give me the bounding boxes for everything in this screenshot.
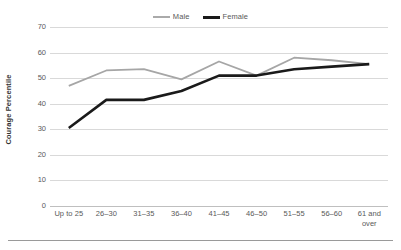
x-tick-label: Up to 25: [50, 209, 88, 241]
x-axis-tick-labels: Up to 2526–3031–3536–4041–4546–5051–5556…: [50, 209, 388, 241]
chart-series-layer: [50, 27, 388, 206]
x-tick-label: 31–35: [125, 209, 163, 241]
y-tick-label: 60: [38, 49, 46, 57]
y-tick-label: 10: [38, 177, 46, 185]
y-tick-label: 30: [38, 126, 46, 134]
x-tick-label: 61 and over: [351, 209, 389, 241]
footer-divider: [8, 240, 393, 241]
y-tick-label: 0: [42, 202, 46, 210]
x-tick-label: 51–55: [275, 209, 313, 241]
y-tick-label: 50: [38, 74, 46, 82]
series-line-male: [69, 58, 369, 86]
x-tick-label: 46–50: [238, 209, 276, 241]
y-axis-tick-labels: 706050403020100: [22, 27, 46, 206]
y-tick-label: 40: [38, 100, 46, 108]
y-tick-label: 70: [38, 23, 46, 31]
line-chart-figure: Male Female Courage Percentile 706050403…: [0, 0, 401, 250]
x-tick-label: 26–30: [88, 209, 126, 241]
x-tick-label: 41–45: [200, 209, 238, 241]
y-tick-label: 20: [38, 151, 46, 159]
plot-area: 706050403020100 Up to 2526–3031–3536–404…: [0, 0, 401, 250]
gridline: [50, 206, 388, 207]
x-tick-label: 56–60: [313, 209, 351, 241]
series-line-female: [69, 64, 369, 128]
x-tick-label: 36–40: [163, 209, 201, 241]
